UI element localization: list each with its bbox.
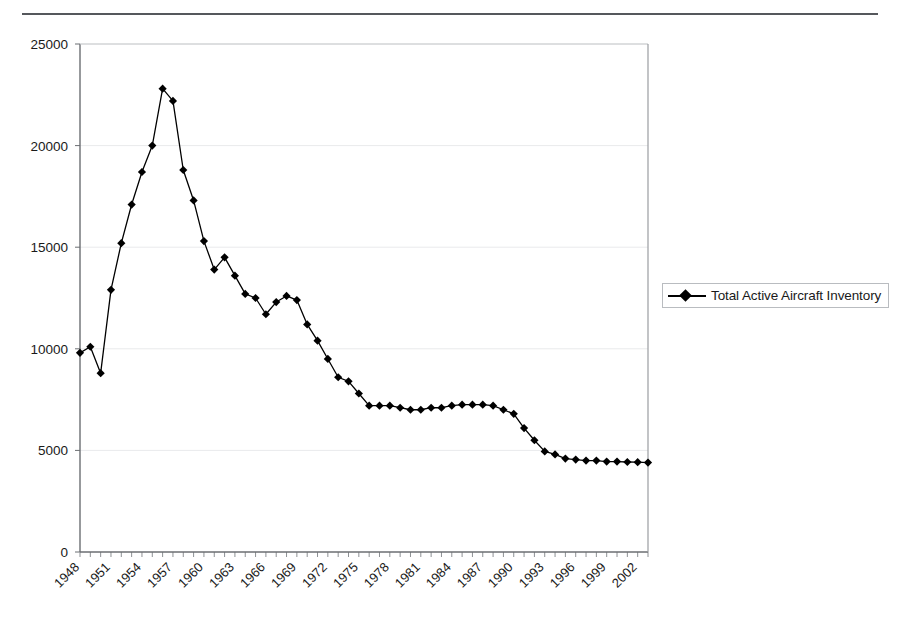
legend-item-label: Total Active Aircraft Inventory	[706, 288, 881, 303]
x-axis-tick-label: 1957	[144, 560, 175, 591]
series-marker	[582, 456, 590, 464]
data-series-layer	[76, 85, 652, 467]
series-marker	[303, 320, 311, 328]
series-marker	[561, 454, 569, 462]
series-marker	[190, 196, 198, 204]
series-marker	[489, 402, 497, 410]
series-marker	[572, 455, 580, 463]
series-line	[80, 89, 648, 463]
series-marker	[623, 458, 631, 466]
x-axis-tick-label: 1951	[82, 560, 113, 591]
series-marker	[406, 406, 414, 414]
series-marker	[251, 294, 259, 302]
x-axis-tick-label: 1999	[578, 560, 609, 591]
line-chart-plot: 0500010000150002000025000 19481951195419…	[0, 0, 902, 630]
x-axis-tick-label: 1969	[268, 560, 299, 591]
series-marker	[396, 404, 404, 412]
y-axis-tick-label: 15000	[30, 240, 68, 255]
series-marker	[313, 337, 321, 345]
gridlines	[80, 44, 648, 450]
series-marker	[282, 292, 290, 300]
series-marker	[117, 239, 125, 247]
series-marker	[551, 450, 559, 458]
series-marker	[603, 457, 611, 465]
x-axis-tick-marks	[80, 552, 648, 557]
legend-item-total-active-aircraft-inventory: Total Active Aircraft Inventory	[668, 288, 881, 303]
series-marker	[499, 406, 507, 414]
series-marker	[293, 296, 301, 304]
series-marker	[86, 343, 94, 351]
x-axis-tick-label: 1960	[175, 560, 206, 591]
x-axis-tick-label: 1978	[361, 560, 392, 591]
series-marker	[231, 272, 239, 280]
series-marker	[613, 457, 621, 465]
y-axis-tick-label: 5000	[38, 443, 68, 458]
x-axis-tick-label: 1993	[516, 560, 547, 591]
y-axis-tick-labels: 0500010000150002000025000	[30, 37, 80, 560]
series-marker	[76, 349, 84, 357]
series-marker	[97, 369, 105, 377]
series-marker	[375, 402, 383, 410]
chart-figure: 0500010000150002000025000 19481951195419…	[0, 0, 902, 630]
series-marker	[107, 286, 115, 294]
series-marker	[138, 168, 146, 176]
series-marker	[448, 402, 456, 410]
series-marker	[479, 401, 487, 409]
x-axis-tick-label: 2002	[609, 560, 640, 591]
series-marker	[148, 142, 156, 150]
series-marker	[634, 458, 642, 466]
series-marker	[468, 401, 476, 409]
series-marker	[128, 200, 136, 208]
y-axis-tick-label: 10000	[30, 342, 68, 357]
x-axis-tick-label: 1984	[423, 560, 454, 591]
legend-line-diamond-icon	[668, 290, 706, 302]
chart-legend: Total Active Aircraft Inventory	[662, 283, 889, 308]
x-axis-tick-label: 1966	[237, 560, 268, 591]
x-axis-tick-label: 1996	[547, 560, 578, 591]
series-marker	[592, 456, 600, 464]
x-axis-tick-labels: 1948195119541957196019631966196919721975…	[51, 560, 640, 591]
x-axis-tick-label: 1954	[113, 560, 144, 591]
series-marker	[427, 404, 435, 412]
series-marker	[200, 237, 208, 245]
y-axis-tick-label: 0	[60, 545, 68, 560]
x-axis-tick-label: 1981	[392, 560, 423, 591]
series-marker	[179, 166, 187, 174]
x-axis-tick-label: 1987	[454, 560, 485, 591]
x-axis-tick-label: 1948	[51, 560, 82, 591]
series-marker	[386, 402, 394, 410]
series-marker	[417, 406, 425, 414]
y-axis-tick-label: 20000	[30, 139, 68, 154]
series-marker	[437, 404, 445, 412]
plot-frame	[80, 44, 648, 552]
x-axis-tick-label: 1972	[299, 560, 330, 591]
series-marker	[241, 290, 249, 298]
y-axis-tick-label: 25000	[30, 37, 68, 52]
x-axis-tick-label: 1975	[330, 560, 361, 591]
series-marker	[334, 373, 342, 381]
series-marker	[644, 458, 652, 466]
series-marker	[458, 401, 466, 409]
x-axis-tick-label: 1963	[206, 560, 237, 591]
series-marker	[324, 355, 332, 363]
x-axis-tick-label: 1990	[485, 560, 516, 591]
